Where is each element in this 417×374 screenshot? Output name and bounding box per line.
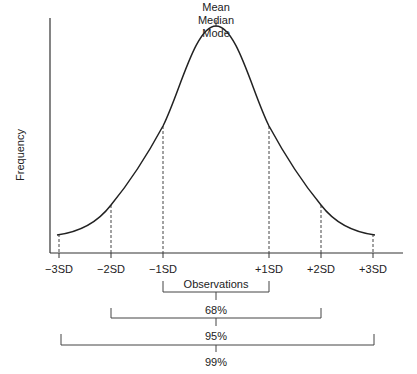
bell-curve (57, 26, 375, 235)
tick-minus-2sd: −2SD (97, 263, 125, 276)
tick-plus-2sd: +2SD (307, 263, 335, 276)
pct-99-label: 99% (205, 356, 227, 369)
tick-plus-1sd: +1SD (255, 263, 283, 276)
pct-68-label: 68% (205, 304, 227, 317)
mode-label: Mode (198, 27, 234, 40)
y-axis-label: Frequency (14, 129, 26, 181)
tick-minus-1sd: −1SD (149, 263, 177, 276)
pct-95-label: 95% (205, 330, 227, 343)
sd-dashed-lines (59, 126, 373, 253)
observations-label: Observations (184, 278, 249, 291)
x-ticks (59, 253, 373, 258)
tick-plus-3sd: +3SD (359, 263, 387, 276)
median-label: Median (198, 14, 234, 27)
tick-minus-3sd: −3SD (45, 263, 73, 276)
normal-curve-diagram (0, 0, 417, 374)
mean-label: Mean (198, 1, 234, 14)
mean-median-mode-label: Mean Median Mode (198, 1, 234, 40)
